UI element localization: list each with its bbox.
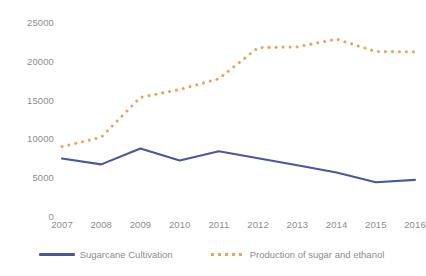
x-tick-label: 2015 [365,219,387,230]
x-tick-label: 2007 [51,219,73,230]
legend-line-swatch-icon [39,253,75,256]
x-tick-label: 2009 [130,219,152,230]
legend-item-production-of-sugar-and-ethanol[interactable]: Production of sugar and ethanol [209,249,385,260]
x-tick-label: 2008 [90,219,112,230]
legend-item-sugarcane-cultivation[interactable]: Sugarcane Cultivation [39,249,173,260]
x-axis: 2007200820092010201120122013201420152016 [0,219,423,235]
chart-legend: Sugarcane Cultivation Production of suga… [0,245,423,263]
x-tick-label: 2016 [404,219,426,230]
x-tick-label: 2012 [247,219,269,230]
legend-label: Sugarcane Cultivation [80,249,173,260]
x-tick-label: 2013 [287,219,309,230]
x-tick-label: 2010 [169,219,191,230]
x-tick-label: 2011 [208,219,229,230]
x-tick-label: 2014 [326,219,348,230]
legend-dotted-swatch-icon [209,253,245,256]
series-line-production-of-sugar-and-ethanol [60,38,415,148]
legend-label: Production of sugar and ethanol [250,249,385,260]
series-line-sugarcane-cultivation [62,148,415,182]
